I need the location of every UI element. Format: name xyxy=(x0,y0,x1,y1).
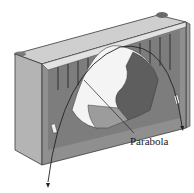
top-knob-right xyxy=(156,12,168,18)
parabola-label: Parabola xyxy=(130,135,169,147)
block-right-face xyxy=(186,22,190,128)
block-left-face xyxy=(15,54,42,165)
parabolic-arch-figure: Parabola xyxy=(0,0,194,193)
parabola-arrow-left-icon xyxy=(46,183,50,188)
